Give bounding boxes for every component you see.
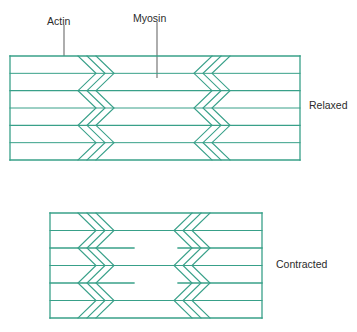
label-contracted-state: Contracted [276,259,327,270]
sarcomere-diagram [0,0,357,332]
panel-relaxed [10,56,300,160]
panel-contracted [50,213,262,318]
label-relaxed-state: Relaxed [309,100,348,111]
diagram-canvas: Actin Myosin Relaxed Contracted [0,0,357,332]
label-actin: Actin [47,16,70,27]
label-myosin: Myosin [133,13,166,24]
